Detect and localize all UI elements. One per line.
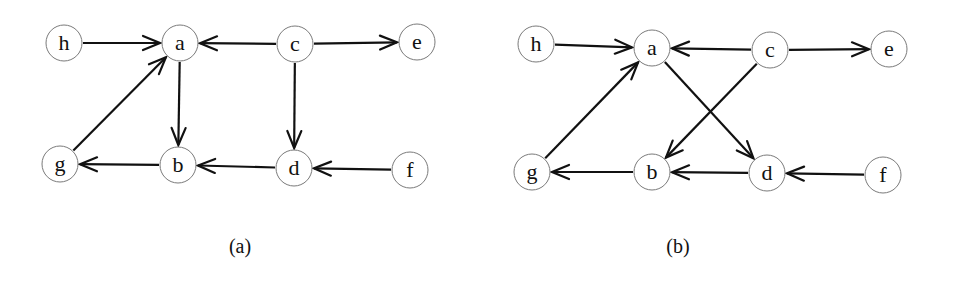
edge-d-to-b <box>198 159 275 173</box>
node-f: f <box>865 157 901 193</box>
edge-c-to-e <box>314 36 397 50</box>
node-label: f <box>879 162 887 187</box>
node-label: e <box>412 29 422 54</box>
edge-g-to-a <box>73 57 166 150</box>
node-label: f <box>406 157 414 182</box>
edge-g-to-a <box>545 62 638 158</box>
edge-c-to-a <box>200 36 276 50</box>
panel-b-edges <box>545 40 869 181</box>
node-label: b <box>647 159 658 184</box>
node-c: c <box>752 32 788 68</box>
node-b: b <box>160 147 196 183</box>
caption-b: (b) <box>666 235 689 258</box>
node-b: b <box>634 154 670 190</box>
edge-h-to-a <box>555 40 632 54</box>
node-g: g <box>514 154 550 190</box>
edge-f-to-d <box>314 162 391 176</box>
node-a: a <box>634 30 670 66</box>
node-label: c <box>290 31 300 56</box>
node-d: d <box>276 150 312 186</box>
node-d: d <box>749 155 785 191</box>
edge-f-to-d <box>787 167 864 181</box>
panel-a-edges <box>73 36 397 176</box>
node-label: c <box>765 37 775 62</box>
node-label: h <box>59 30 70 55</box>
node-a: a <box>162 25 198 61</box>
graph-figure: hacegbdf (a) hacegbdf (b) <box>0 0 954 284</box>
node-f: f <box>392 152 428 188</box>
node-label: e <box>884 36 894 61</box>
node-label: g <box>55 151 66 176</box>
node-label: a <box>647 35 657 60</box>
node-label: d <box>289 155 300 180</box>
edge-d-to-b <box>672 165 748 179</box>
node-h: h <box>518 26 554 62</box>
node-label: g <box>527 159 538 184</box>
panel-b-nodes: hacegbdf <box>514 26 907 193</box>
edge-b-to-g <box>80 157 159 171</box>
node-e: e <box>399 24 435 60</box>
node-c: c <box>277 26 313 62</box>
panel-a: hacegbdf (a) <box>42 24 435 258</box>
edge-h-to-a <box>83 36 160 50</box>
edge-c-to-a <box>672 42 751 56</box>
edge-c-to-d <box>287 63 301 148</box>
node-e: e <box>871 31 907 67</box>
edge-c-to-e <box>789 42 869 56</box>
node-label: b <box>173 152 184 177</box>
node-h: h <box>46 25 82 61</box>
node-g: g <box>42 146 78 182</box>
node-label: a <box>175 30 185 55</box>
panel-b: hacegbdf (b) <box>514 26 907 258</box>
edge-b-to-g <box>552 165 633 179</box>
node-label: h <box>531 31 542 56</box>
caption-a: (a) <box>229 235 251 258</box>
edge-a-to-b <box>172 62 186 145</box>
node-label: d <box>762 160 773 185</box>
